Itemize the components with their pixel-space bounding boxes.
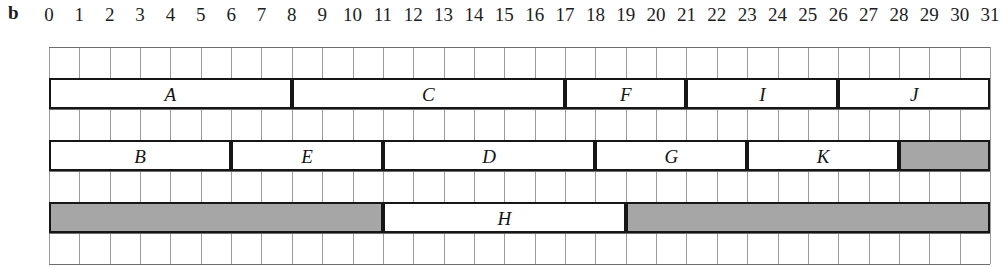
axis-tick-label: 31 [981, 4, 1000, 26]
axis-tick-label: 15 [495, 4, 514, 26]
axis-tick-label: 28 [889, 4, 908, 26]
grid-line-horizontal [49, 233, 990, 234]
axis-tick-label: 2 [105, 4, 115, 26]
task-bar-h[interactable]: H [383, 202, 626, 233]
axis-tick-label: 23 [738, 4, 757, 26]
task-bar-e[interactable]: E [231, 140, 383, 171]
axis-tick-label: 14 [464, 4, 483, 26]
task-bar-label: A [51, 84, 290, 103]
axis-tick-label: 24 [768, 4, 787, 26]
idle-bar[interactable] [899, 140, 990, 171]
task-bar-label: D [385, 146, 593, 165]
grid-line-vertical [990, 47, 991, 264]
schedule-grid: ACFIJBEDGKH [49, 47, 990, 264]
axis-tick-label: 7 [257, 4, 267, 26]
axis-tick-label: 12 [404, 4, 423, 26]
axis-tick-label: 30 [950, 4, 969, 26]
axis-tick-label: 18 [586, 4, 605, 26]
axis-tick-label: 16 [525, 4, 544, 26]
task-bar-label: K [749, 146, 897, 165]
task-bar-a[interactable]: A [49, 78, 292, 109]
task-bar-i[interactable]: I [686, 78, 838, 109]
task-bar-label: C [294, 84, 563, 103]
axis-tick-label: 26 [829, 4, 848, 26]
axis-tick-label: 21 [677, 4, 696, 26]
grid-line-horizontal [49, 171, 990, 172]
axis-tick-label: 9 [317, 4, 327, 26]
axis-tick-label: 19 [616, 4, 635, 26]
task-bar-label: F [567, 84, 684, 103]
task-bar-label: H [385, 208, 624, 227]
axis-tick-label: 3 [135, 4, 145, 26]
task-bar-c[interactable]: C [292, 78, 565, 109]
axis-tick-label: 20 [647, 4, 666, 26]
axis-tick-label: 29 [920, 4, 939, 26]
gantt-schedule-figure: b 01234567891011121314151617181920212223… [0, 0, 1008, 269]
axis-tick-label: 6 [226, 4, 236, 26]
axis-tick-label: 0 [44, 4, 54, 26]
task-bar-g[interactable]: G [595, 140, 747, 171]
task-bar-f[interactable]: F [565, 78, 686, 109]
task-bar-b[interactable]: B [49, 140, 231, 171]
idle-bar[interactable] [49, 202, 383, 233]
time-axis: 0123456789101112131415161718192021222324… [49, 4, 990, 30]
task-bar-label: G [597, 146, 745, 165]
axis-tick-label: 10 [343, 4, 362, 26]
axis-tick-label: 1 [75, 4, 85, 26]
axis-tick-label: 13 [434, 4, 453, 26]
task-bar-label: E [233, 146, 381, 165]
grid-line-horizontal [49, 109, 990, 110]
axis-tick-label: 25 [798, 4, 817, 26]
task-bar-d[interactable]: D [383, 140, 595, 171]
axis-tick-label: 11 [374, 4, 392, 26]
axis-tick-label: 22 [707, 4, 726, 26]
task-bar-k[interactable]: K [747, 140, 899, 171]
axis-tick-label: 8 [287, 4, 297, 26]
panel-label: b [8, 3, 19, 22]
task-bar-label: I [688, 84, 836, 103]
axis-tick-label: 17 [556, 4, 575, 26]
grid-line-horizontal [49, 47, 990, 48]
idle-bar[interactable] [626, 202, 990, 233]
grid-line-horizontal [49, 264, 990, 265]
axis-tick-label: 27 [859, 4, 878, 26]
axis-tick-label: 5 [196, 4, 206, 26]
axis-tick-label: 4 [166, 4, 176, 26]
task-bar-label: B [51, 146, 229, 165]
task-bar-label: J [840, 84, 988, 103]
task-bar-j[interactable]: J [838, 78, 990, 109]
